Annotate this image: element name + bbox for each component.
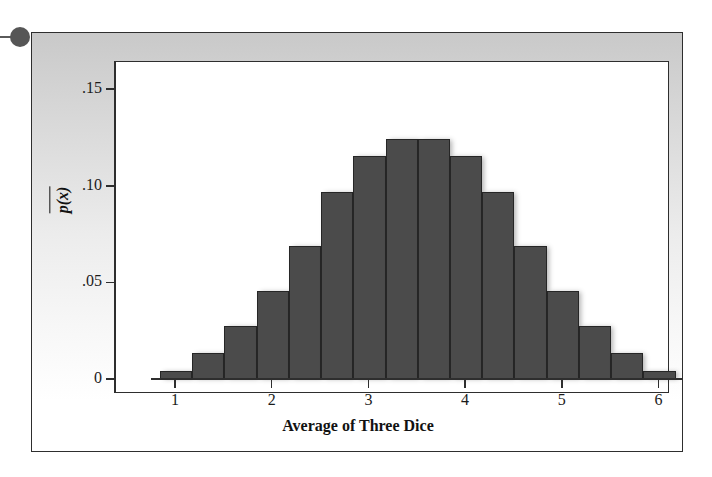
x-axis-tick xyxy=(368,379,370,388)
histogram-bar xyxy=(353,156,385,380)
x-axis-line xyxy=(151,378,683,380)
histogram-bar xyxy=(386,139,418,381)
y-axis-tick-label: .10 xyxy=(70,176,102,194)
x-axis-tick xyxy=(658,379,660,388)
x-axis-tick xyxy=(174,379,176,388)
histogram-bar xyxy=(192,353,224,380)
histogram-bar xyxy=(482,192,514,380)
histogram-bar xyxy=(321,192,353,380)
x-axis-tick-label: 2 xyxy=(262,391,282,409)
y-axis-tick xyxy=(106,378,115,380)
x-axis-title: Average of Three Dice xyxy=(32,417,683,435)
x-axis-tick-label: 3 xyxy=(358,391,378,409)
x-axis-tick-label: 5 xyxy=(552,391,572,409)
y-axis-tick xyxy=(106,185,115,187)
y-axis-title-text: p(x) xyxy=(54,187,71,214)
histogram-bar xyxy=(579,326,611,380)
histogram-bar xyxy=(224,326,256,380)
y-axis-tick-label: .15 xyxy=(70,79,102,97)
y-axis-tick-label: .05 xyxy=(70,272,102,290)
histogram-bar xyxy=(450,156,482,380)
plot-area xyxy=(115,61,669,393)
y-axis-tick xyxy=(106,88,115,90)
histogram-bars xyxy=(116,62,668,394)
histogram-bar xyxy=(257,291,289,380)
x-axis-tick xyxy=(464,379,466,388)
y-axis-tick-label: 0 xyxy=(70,369,102,387)
x-axis-tick xyxy=(271,379,273,388)
histogram-bar xyxy=(611,353,643,380)
histogram-bar xyxy=(547,291,579,380)
histogram-bar xyxy=(418,139,450,381)
histogram-bar xyxy=(289,246,321,380)
figure-frame: 0.05.10.15 123456 p(x) x Average of Thre… xyxy=(31,32,683,452)
plot-inner xyxy=(116,62,668,392)
x-axis-tick-label: 4 xyxy=(455,391,475,409)
x-axis-tick-label: 1 xyxy=(165,391,185,409)
y-axis-line xyxy=(114,61,116,393)
bullet-dot-icon xyxy=(10,27,30,47)
histogram-bar xyxy=(514,246,546,380)
x-axis-tick xyxy=(561,379,563,388)
y-axis-tick xyxy=(106,282,115,284)
y-axis-title: p(x) xyxy=(54,187,72,214)
x-axis-tick-label: 6 xyxy=(649,391,669,409)
